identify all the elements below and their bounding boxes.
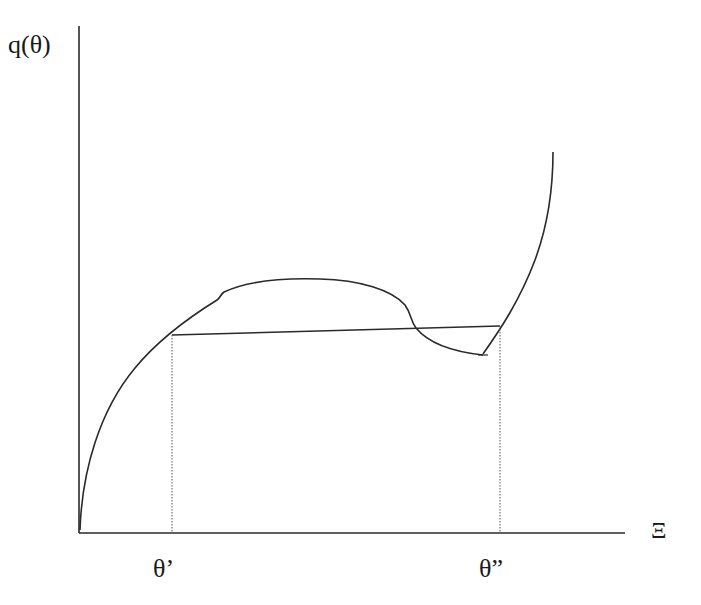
theta-prime-label: θ’ — [153, 556, 174, 582]
theta-double-prime-label: θ” — [479, 556, 503, 582]
tie-line — [172, 326, 500, 335]
right-curve-branch — [483, 152, 553, 354]
y-axis-label: q(θ) — [8, 32, 51, 58]
x-axis-label: Ξ — [651, 518, 666, 542]
phase-diagram — [0, 0, 701, 605]
left-curve-branch — [80, 279, 483, 530]
